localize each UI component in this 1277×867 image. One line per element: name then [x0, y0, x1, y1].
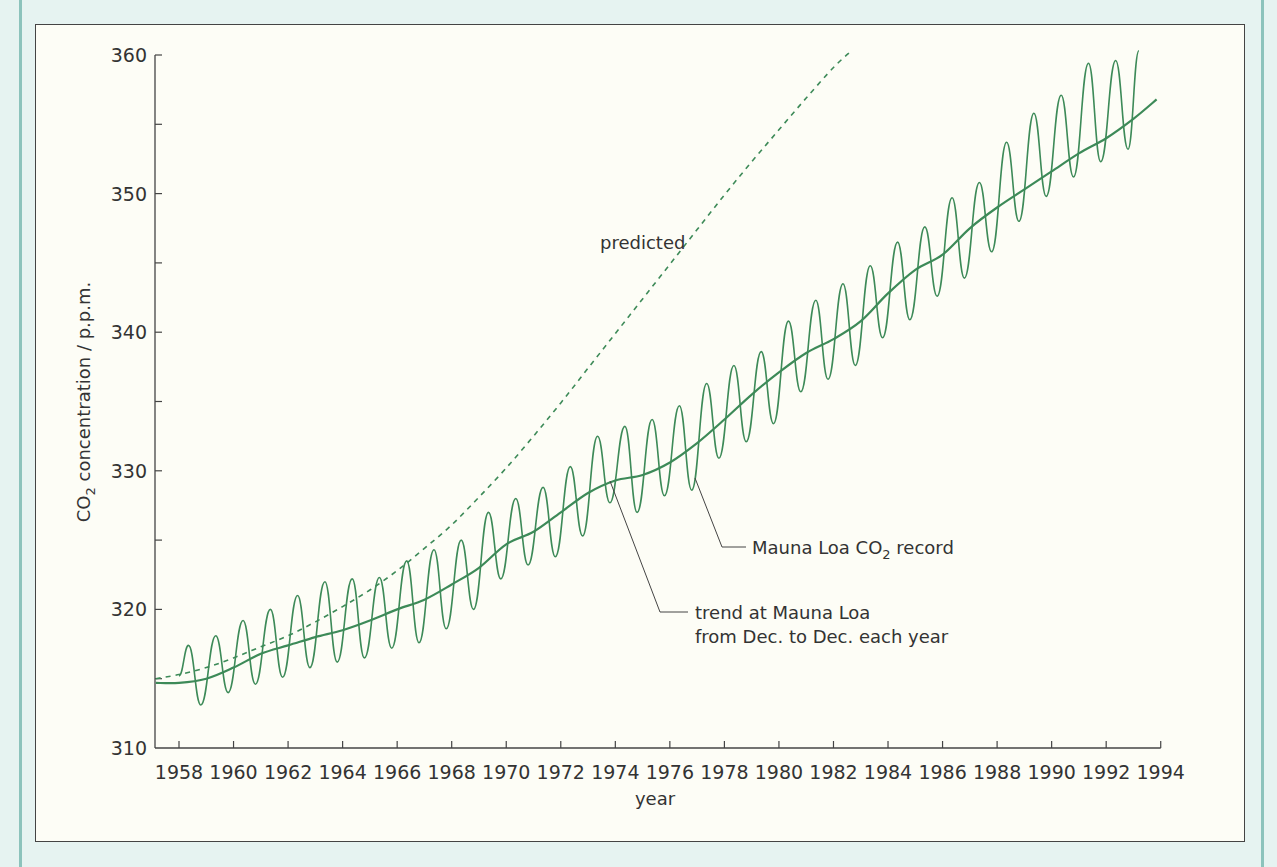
co2-chart: 3103203303403503601958196019621964196619…	[0, 0, 1277, 867]
x-axis-title: year	[635, 788, 676, 809]
y-axis-title: CO2 concentration / p.p.m.	[73, 282, 98, 522]
y-tick-label: 330	[111, 460, 147, 482]
x-tick-label: 1968	[428, 761, 476, 783]
trend-label-line2: from Dec. to Dec. each year	[695, 626, 949, 647]
y-tick-label: 310	[111, 737, 147, 759]
predicted-label: predicted	[600, 232, 685, 253]
mauna-loa-record-line	[179, 51, 1139, 705]
x-tick-label: 1986	[918, 761, 966, 783]
x-tick-label: 1962	[264, 761, 312, 783]
x-tick-label: 1992	[1082, 761, 1130, 783]
x-tick-label: 1988	[973, 761, 1021, 783]
record-leader-line	[695, 478, 746, 547]
y-tick-label: 360	[111, 44, 147, 66]
x-tick-label: 1982	[809, 761, 857, 783]
y-tick-label: 350	[111, 183, 147, 205]
x-tick-label: 1978	[700, 761, 748, 783]
y-tick-label: 340	[111, 321, 147, 343]
x-tick-label: 1990	[1027, 761, 1075, 783]
record-label: Mauna Loa CO2 record	[752, 537, 954, 562]
trend-leader-line	[610, 481, 688, 612]
y-tick-label: 320	[111, 598, 147, 620]
x-tick-label: 1974	[591, 761, 639, 783]
x-tick-label: 1980	[755, 761, 803, 783]
tick-labels: 3103203303403503601958196019621964196619…	[111, 44, 1185, 783]
trend-line	[156, 99, 1157, 683]
x-tick-label: 1972	[537, 761, 585, 783]
x-tick-label: 1960	[209, 761, 257, 783]
x-tick-label: 1994	[1137, 761, 1185, 783]
x-tick-label: 1970	[482, 761, 530, 783]
x-tick-label: 1958	[155, 761, 203, 783]
trend-label-line1: trend at Mauna Loa	[695, 602, 870, 623]
x-tick-label: 1976	[646, 761, 694, 783]
x-tick-label: 1984	[864, 761, 912, 783]
predicted-dashed-line	[156, 52, 850, 679]
x-tick-label: 1964	[318, 761, 366, 783]
x-tick-label: 1966	[373, 761, 421, 783]
